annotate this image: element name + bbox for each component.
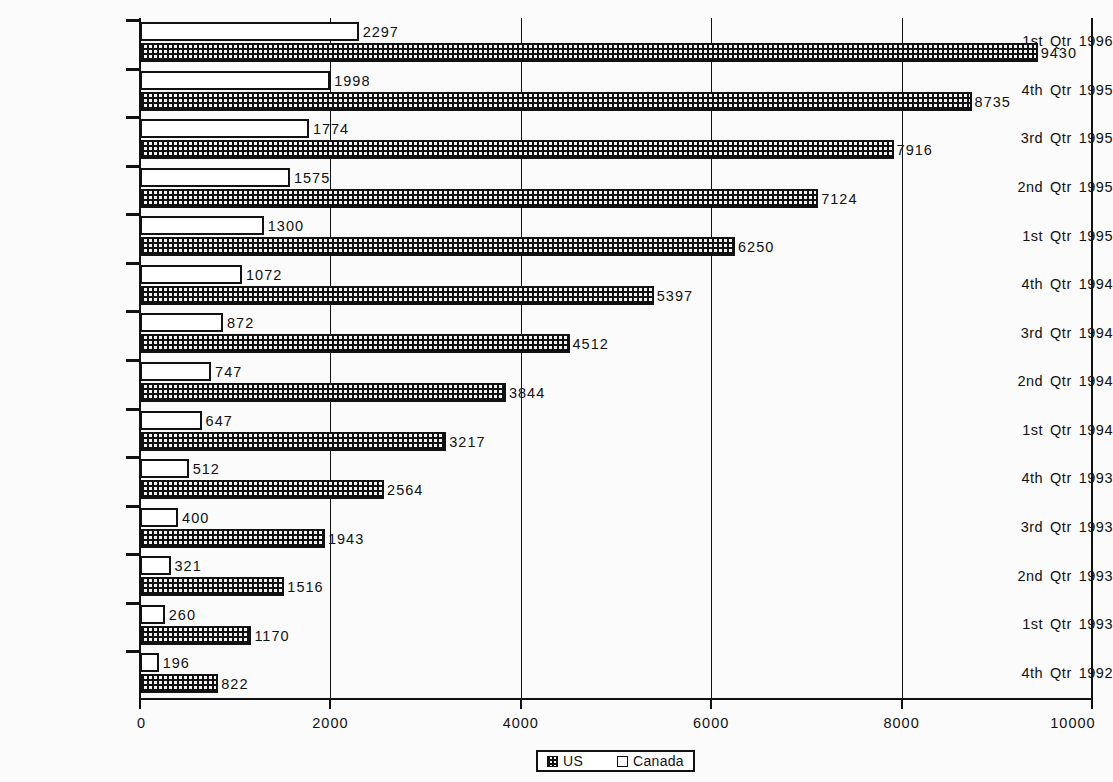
bar-value-us: 7124: [821, 191, 857, 207]
gridline: [902, 18, 903, 698]
hollow-swatch: [617, 756, 628, 767]
bar-value-canada: 1998: [334, 73, 370, 89]
bar-value-us: 3217: [449, 434, 485, 450]
bar-us: [140, 92, 972, 111]
bar-us: [140, 674, 218, 693]
x-axis-tick-label: 6000: [693, 715, 729, 731]
legend-item: Canada: [617, 753, 684, 769]
bar-value-us: 7916: [897, 142, 933, 158]
bar-us: [140, 334, 570, 353]
bar-canada: [140, 119, 309, 138]
bar-canada: [140, 22, 359, 41]
x-axis-tick: [329, 698, 331, 709]
y-axis-tick: [126, 262, 140, 265]
y-axis-tick: [126, 553, 140, 556]
plot-area: 2297943019988735177479161575712413006250…: [140, 18, 1092, 698]
bar-value-us: 8735: [975, 94, 1011, 110]
y-axis-tick: [126, 456, 140, 459]
bar-value-canada: 2297: [363, 24, 399, 40]
bar-value-canada: 1575: [294, 170, 330, 186]
bar-us: [140, 529, 325, 548]
y-axis-tick: [126, 359, 140, 362]
gridline: [330, 18, 331, 698]
y-axis-tick: [126, 650, 140, 653]
bar-value-us: 5397: [657, 288, 693, 304]
gridline: [711, 18, 712, 698]
bar-canada: [140, 71, 330, 90]
bar-canada: [140, 459, 189, 478]
bar-value-canada: 512: [193, 461, 220, 477]
bar-canada: [140, 605, 165, 624]
chart-legend: USCanada: [536, 750, 695, 772]
gridline: [521, 18, 522, 698]
bar-value-canada: 872: [227, 315, 254, 331]
bar-value-canada: 747: [215, 364, 242, 380]
bar-us: [140, 237, 735, 256]
bar-value-canada: 1300: [268, 218, 304, 234]
bar-canada: [140, 362, 211, 381]
bar-value-us: 6250: [738, 239, 774, 255]
bar-canada: [140, 508, 178, 527]
bar-value-us: 1516: [287, 579, 323, 595]
y-axis-tick: [126, 602, 140, 605]
y-axis-tick: [126, 310, 140, 313]
bar-chart: 1stQtr19964thQtr19953rdQtr19952ndQtr1995…: [0, 0, 1113, 782]
x-axis-tick-label: 4000: [503, 715, 539, 731]
bar-us: [140, 383, 506, 402]
y-axis-tick: [126, 165, 140, 168]
bar-value-us: 3844: [509, 385, 545, 401]
bar-canada: [140, 216, 264, 235]
bar-us: [140, 286, 654, 305]
y-axis-tick: [126, 408, 140, 411]
y-axis-tick: [126, 68, 140, 71]
bar-canada: [140, 168, 290, 187]
legend-item: US: [547, 753, 583, 769]
bar-canada: [140, 265, 242, 284]
x-axis-tick-label: 8000: [883, 715, 919, 731]
bar-value-us: 2564: [387, 482, 423, 498]
y-axis-tick: [126, 116, 140, 119]
dotted-swatch: [547, 756, 558, 767]
bar-canada: [140, 556, 171, 575]
bar-us: [140, 189, 818, 208]
bar-value-canada: 321: [175, 558, 202, 574]
x-axis-tick-label: 0: [137, 715, 146, 731]
y-axis-tick: [126, 505, 140, 508]
bar-value-us: 4512: [573, 336, 609, 352]
gridline: [1091, 18, 1093, 698]
bar-value-canada: 1774: [313, 121, 349, 137]
x-axis-tick: [1091, 698, 1093, 709]
bar-value-canada: 196: [163, 655, 190, 671]
x-axis-tick: [520, 698, 522, 709]
bar-value-us: 1943: [328, 531, 364, 547]
bar-value-us: 822: [221, 676, 248, 692]
x-axis-tick: [710, 698, 712, 709]
bar-value-canada: 1072: [246, 267, 282, 283]
bar-value-canada: 260: [169, 607, 196, 623]
x-axis-tick-label: 10000: [1050, 715, 1095, 731]
bar-us: [140, 480, 384, 499]
bar-value-canada: 647: [206, 413, 233, 429]
bar-us: [140, 43, 1038, 62]
bar-canada: [140, 313, 223, 332]
x-axis-line: [139, 698, 1092, 700]
legend-label: Canada: [633, 753, 684, 769]
bar-us: [140, 432, 446, 451]
legend-label: US: [563, 753, 583, 769]
bar-canada: [140, 411, 202, 430]
bar-us: [140, 577, 284, 596]
bar-canada: [140, 653, 159, 672]
bar-value-canada: 400: [182, 510, 209, 526]
y-axis-tick: [126, 213, 140, 216]
bar-us: [140, 626, 251, 645]
x-axis-tick-label: 2000: [312, 715, 348, 731]
x-axis-tick: [139, 698, 141, 709]
bar-value-us: 9430: [1041, 45, 1077, 61]
y-axis-tick: [126, 19, 140, 22]
bar-us: [140, 140, 894, 159]
x-axis-tick: [901, 698, 903, 709]
bar-value-us: 1170: [254, 628, 289, 644]
